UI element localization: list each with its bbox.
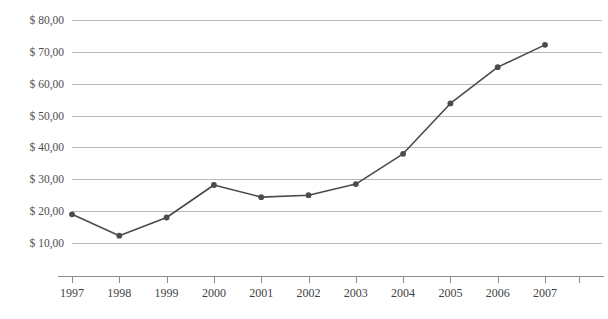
series-markers [69, 42, 548, 239]
x-axis-tick [403, 277, 404, 283]
x-axis-tick [545, 277, 546, 283]
x-axis-line [58, 276, 604, 277]
data-point [448, 101, 454, 107]
x-axis-tick [261, 277, 262, 283]
x-axis-tick [72, 277, 73, 283]
data-point [400, 151, 406, 157]
x-axis-tick-label: 1997 [45, 286, 99, 300]
data-point [542, 42, 548, 48]
x-axis-tick [119, 277, 120, 283]
x-axis-tick-label: 2003 [329, 286, 383, 300]
x-axis-tick-label: 1999 [140, 286, 194, 300]
x-axis-tick [309, 277, 310, 283]
x-axis-tick [167, 277, 168, 283]
x-axis-end-tick [579, 277, 580, 283]
x-axis-tick-label: 2005 [423, 286, 477, 300]
data-point [164, 215, 170, 221]
data-point [495, 64, 501, 70]
x-axis-tick [214, 277, 215, 283]
data-point [306, 192, 312, 198]
series-line [72, 45, 545, 236]
data-point [353, 181, 359, 187]
x-axis-tick-label: 2000 [187, 286, 241, 300]
x-axis-tick [356, 277, 357, 283]
data-point [258, 194, 264, 200]
x-axis-tick-label: 2004 [376, 286, 430, 300]
series-plot [0, 0, 608, 319]
x-axis-tick [450, 277, 451, 283]
x-axis-tick-label: 2007 [518, 286, 572, 300]
x-axis-tick-label: 2006 [471, 286, 525, 300]
data-point [69, 211, 75, 217]
x-axis-tick-label: 1998 [92, 286, 146, 300]
x-axis-tick [498, 277, 499, 283]
data-point [116, 233, 122, 239]
data-point [211, 182, 217, 188]
x-axis-tick-label: 2001 [234, 286, 288, 300]
x-axis-tick-label: 2002 [282, 286, 336, 300]
line-chart: $ 80,00$ 70,00$ 60,00$ 50,00$ 40,00$ 30,… [0, 0, 608, 319]
